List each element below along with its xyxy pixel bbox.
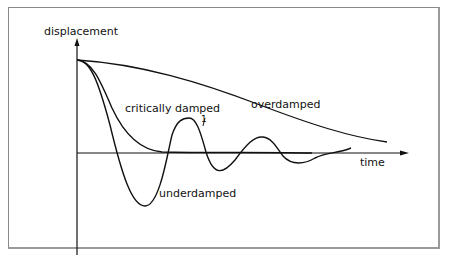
overdamped-curve — [77, 60, 387, 142]
underdamped-label: underdamped — [159, 188, 236, 199]
marker-label: 1 — [201, 115, 207, 124]
y-axis-label: displacement — [44, 26, 118, 37]
damping-diagram — [0, 0, 449, 279]
y-axis — [75, 38, 80, 255]
x-axis-arrow-icon — [400, 151, 409, 156]
underdamped-curve — [77, 60, 351, 206]
overdamped-label: overdamped — [251, 99, 321, 110]
x-axis-label: time — [360, 157, 385, 168]
y-axis-arrow-icon — [75, 38, 80, 46]
critically-damped-label: critically damped — [125, 103, 220, 114]
